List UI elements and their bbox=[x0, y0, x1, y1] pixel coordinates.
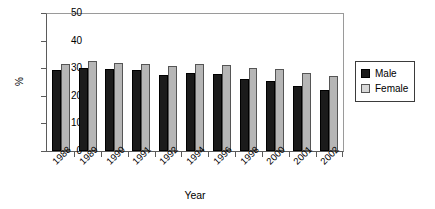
bar-group bbox=[128, 13, 155, 151]
y-axis-tick-mark bbox=[41, 151, 46, 152]
bar-male-2000 bbox=[266, 81, 275, 151]
bar-male-2002 bbox=[320, 90, 329, 151]
chart-root: % 01020304050 19881989199019911992199419… bbox=[0, 0, 435, 209]
bar-male-1996 bbox=[213, 74, 222, 151]
bar-female-1988 bbox=[61, 64, 70, 151]
bar-male-1990 bbox=[105, 69, 114, 151]
bar-female-1990 bbox=[114, 63, 123, 151]
legend-label-male: Male bbox=[375, 69, 397, 79]
x-axis-title: Year bbox=[0, 189, 390, 201]
bar-male-1989 bbox=[79, 68, 88, 151]
bar-group bbox=[155, 13, 182, 151]
bar-male-1991 bbox=[132, 70, 141, 151]
y-axis-tick-mark bbox=[41, 123, 46, 124]
y-axis-tick-mark bbox=[41, 68, 46, 69]
x-axis-tick-mark bbox=[74, 152, 75, 157]
legend: Male Female bbox=[355, 61, 415, 102]
bar-male-1994 bbox=[186, 73, 195, 151]
bar-male-1998 bbox=[240, 79, 249, 151]
bar-group bbox=[74, 13, 101, 151]
bar-female-1998 bbox=[249, 68, 258, 151]
legend-swatch-female-icon bbox=[361, 84, 370, 93]
x-axis-tick-mark bbox=[289, 152, 290, 157]
x-axis-tick-mark bbox=[208, 152, 209, 157]
y-axis-tick-mark bbox=[41, 13, 46, 14]
bar-female-1994 bbox=[195, 64, 204, 151]
bar-group bbox=[289, 13, 316, 151]
bar-group bbox=[101, 13, 128, 151]
bar-group bbox=[47, 13, 74, 151]
bar-female-2002 bbox=[329, 76, 338, 151]
bar-group bbox=[235, 13, 262, 151]
y-axis-tick-mark bbox=[41, 96, 46, 97]
bar-female-1992 bbox=[168, 66, 177, 151]
y-axis-tick-mark bbox=[41, 41, 46, 42]
legend-swatch-male-icon bbox=[361, 69, 370, 78]
bar-group bbox=[181, 13, 208, 151]
x-axis-tick-mark bbox=[181, 152, 182, 157]
bar-female-2001 bbox=[302, 73, 311, 151]
x-axis-tick-mark bbox=[101, 152, 102, 157]
legend-item-male: Male bbox=[361, 66, 408, 81]
bar-series-group bbox=[47, 13, 342, 151]
bar-group bbox=[262, 13, 289, 151]
bar-female-2000 bbox=[275, 69, 284, 151]
bar-male-1988 bbox=[52, 70, 61, 151]
bar-female-1989 bbox=[88, 61, 97, 151]
bar-male-2001 bbox=[293, 86, 302, 151]
y-axis-title: % bbox=[14, 71, 25, 93]
bar-female-1991 bbox=[141, 64, 150, 151]
x-axis-tick-mark bbox=[235, 152, 236, 157]
bar-female-1996 bbox=[222, 65, 231, 151]
x-axis-tick-mark bbox=[155, 152, 156, 157]
x-axis-tick-mark bbox=[128, 152, 129, 157]
bar-male-1992 bbox=[159, 75, 168, 151]
x-axis-tick-mark bbox=[262, 152, 263, 157]
legend-label-female: Female bbox=[375, 84, 408, 94]
bar-group bbox=[316, 13, 343, 151]
x-axis-tick-mark bbox=[342, 152, 343, 157]
legend-item-female: Female bbox=[361, 81, 408, 96]
x-axis-tick-mark bbox=[316, 152, 317, 157]
bar-group bbox=[208, 13, 235, 151]
